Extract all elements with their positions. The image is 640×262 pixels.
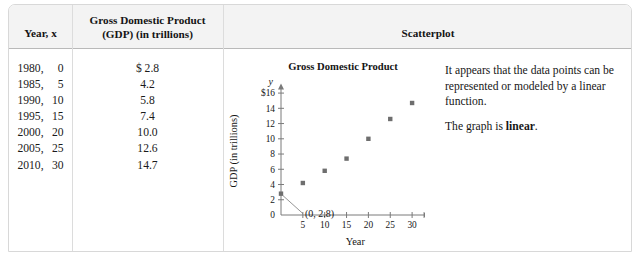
table-row: 1995,15 bbox=[9, 109, 72, 125]
cell-year: 2000, bbox=[17, 125, 43, 141]
y-tick-label: 4 bbox=[270, 180, 275, 190]
plot-axes bbox=[278, 83, 425, 218]
cell-year: 2005, bbox=[17, 141, 43, 157]
gdp-column-cells: $ 2.84.25.87.410.012.614.7 bbox=[75, 61, 220, 174]
cell-year: 1995, bbox=[17, 109, 43, 125]
x-tick-label: 25 bbox=[386, 220, 396, 230]
explanation-panel: It appears that the data points can be r… bbox=[445, 63, 631, 134]
cell-x-value: 10 bbox=[44, 93, 64, 109]
y-tick-label: 2 bbox=[270, 195, 275, 205]
year-column-cells: 1980,01985,51990,101995,152000,202005,25… bbox=[9, 61, 72, 174]
x-tick-label: 10 bbox=[320, 220, 330, 230]
column-divider-year-gdp bbox=[72, 5, 73, 251]
table-row: 2010,30 bbox=[9, 158, 72, 174]
column-header-year-label: Year, x bbox=[24, 27, 57, 39]
cell-gdp-value: 7.4 bbox=[75, 109, 220, 125]
annotation-label: (0, 2.8) bbox=[305, 208, 334, 220]
scatterplot-svg: 2468101214$160 51015202530 (0, 2.8) Year… bbox=[225, 55, 425, 251]
cell-x-value: 20 bbox=[44, 125, 64, 141]
example-table-card: Year, x Gross Domestic Product (GDP) (in… bbox=[8, 4, 632, 252]
cell-gdp-value: 10.0 bbox=[75, 125, 220, 141]
table-row: 2000,20 bbox=[9, 125, 72, 141]
cell-year: 1980, bbox=[17, 61, 43, 77]
header-separator bbox=[9, 48, 631, 49]
column-header-gdp-line2: (GDP) (in trillions) bbox=[75, 28, 220, 42]
column-header-scatterplot: Scatterplot bbox=[225, 27, 631, 41]
explanation-line-2: The graph is linear. bbox=[445, 119, 631, 135]
x-axis-title: Year bbox=[346, 236, 366, 247]
column-header-scatterplot-label: Scatterplot bbox=[402, 27, 455, 39]
cell-x-value: 5 bbox=[44, 77, 64, 93]
data-point bbox=[410, 101, 414, 105]
y-tick-label: $16 bbox=[261, 88, 275, 98]
table-row: 1990,10 bbox=[9, 93, 72, 109]
cell-year: 1990, bbox=[17, 93, 43, 109]
y-axis-title: GDP (in trillions) bbox=[228, 115, 240, 188]
y-tick-label: 6 bbox=[270, 165, 275, 175]
cell-x-value: 15 bbox=[44, 109, 64, 125]
explanation-line-2-prefix: The graph is bbox=[445, 120, 506, 133]
column-header-gdp: Gross Domestic Product (GDP) (in trillio… bbox=[75, 14, 220, 41]
x-tick-label: 15 bbox=[342, 220, 352, 230]
cell-x-value: 25 bbox=[44, 141, 64, 157]
table-row: 2005,25 bbox=[9, 141, 72, 157]
column-header-gdp-line1: Gross Domestic Product bbox=[75, 14, 220, 28]
y-tick-label: 10 bbox=[266, 134, 276, 144]
table-row: 1980,0 bbox=[9, 61, 72, 77]
data-point bbox=[279, 191, 283, 195]
annotation-leader-line bbox=[283, 196, 303, 214]
cell-x-value: 0 bbox=[44, 61, 64, 77]
cell-gdp-value: 14.7 bbox=[75, 158, 220, 174]
cell-gdp-value: 5.8 bbox=[75, 93, 220, 109]
data-point bbox=[301, 181, 305, 185]
scatterplot: 2468101214$160 51015202530 (0, 2.8) Year… bbox=[225, 55, 425, 251]
cell-gdp-value: 4.2 bbox=[75, 77, 220, 93]
y-tick-label: 12 bbox=[266, 119, 276, 129]
explanation-line-2-suffix: . bbox=[535, 120, 538, 133]
x-tick-label: 20 bbox=[364, 220, 374, 230]
data-point bbox=[388, 117, 392, 121]
cell-x-value: 30 bbox=[44, 158, 64, 174]
point-annotation: (0, 2.8) bbox=[283, 196, 334, 221]
data-point bbox=[344, 156, 348, 160]
data-point bbox=[366, 137, 370, 141]
y-tick-label: 14 bbox=[266, 104, 276, 114]
column-divider-gdp-scatterplot bbox=[223, 5, 224, 251]
y-axis-symbol: y bbox=[268, 76, 274, 87]
cell-year: 1985, bbox=[17, 77, 43, 93]
y-tick-label-zero: 0 bbox=[270, 210, 275, 220]
column-header-year: Year, x bbox=[9, 27, 72, 41]
explanation-line-2-bold: linear bbox=[506, 120, 535, 133]
table-row: 1985,5 bbox=[9, 77, 72, 93]
explanation-line-1: It appears that the data points can be r… bbox=[445, 63, 631, 110]
cell-gdp-value: 12.6 bbox=[75, 141, 220, 157]
cell-year: 2010, bbox=[17, 158, 43, 174]
x-tick-label: 5 bbox=[301, 220, 306, 230]
y-tick-label: 8 bbox=[270, 149, 275, 159]
data-points bbox=[279, 101, 415, 196]
cell-gdp-value: $ 2.8 bbox=[75, 61, 220, 77]
y-axis-arrowhead bbox=[278, 83, 284, 89]
data-point bbox=[323, 169, 327, 173]
x-axis-arrowhead bbox=[424, 212, 425, 218]
x-tick-label: 30 bbox=[407, 220, 417, 230]
